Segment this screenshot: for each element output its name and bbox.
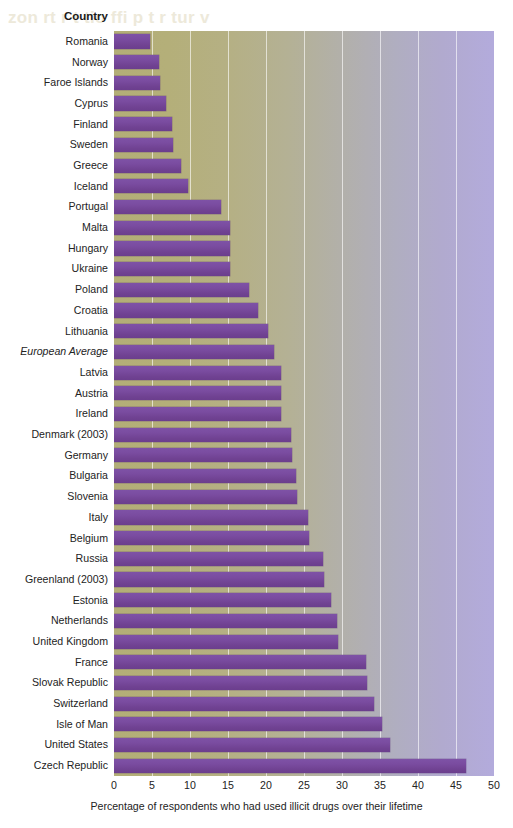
category-label: Norway xyxy=(0,56,108,68)
category-label: Slovenia xyxy=(0,490,108,502)
bar xyxy=(114,221,230,235)
x-tick-label: 15 xyxy=(222,779,234,791)
category-label: Sweden xyxy=(0,138,108,150)
bar xyxy=(114,303,258,317)
category-label: Czech Republic xyxy=(0,759,108,771)
bar xyxy=(114,345,274,359)
bar-row xyxy=(114,673,494,694)
x-tick-label: 10 xyxy=(184,779,196,791)
x-tick-label: 0 xyxy=(111,779,117,791)
bar xyxy=(114,552,323,566)
bar-row xyxy=(114,714,494,735)
bar-row xyxy=(114,93,494,114)
category-label: Austria xyxy=(0,387,108,399)
bar-row xyxy=(114,755,494,776)
bar-row xyxy=(114,610,494,631)
bar xyxy=(114,324,268,338)
bar-row xyxy=(114,72,494,93)
category-label: Faroe Islands xyxy=(0,76,108,88)
x-tick-label: 25 xyxy=(298,779,310,791)
category-label: France xyxy=(0,656,108,668)
bar-row xyxy=(114,197,494,218)
category-column-header: Country xyxy=(0,10,108,22)
category-label: European Average xyxy=(0,345,108,357)
bar-row xyxy=(114,383,494,404)
bar xyxy=(114,179,188,193)
bar-row xyxy=(114,114,494,135)
bar xyxy=(114,117,172,131)
category-label: Portugal xyxy=(0,200,108,212)
bar xyxy=(114,759,466,773)
bar-row xyxy=(114,31,494,52)
bar xyxy=(114,55,159,69)
x-tick-label: 30 xyxy=(336,779,348,791)
category-label: Lithuania xyxy=(0,325,108,337)
bar xyxy=(114,386,281,400)
category-label: Slovak Republic xyxy=(0,676,108,688)
category-label: Greece xyxy=(0,159,108,171)
bar-row xyxy=(114,693,494,714)
category-label: Denmark (2003) xyxy=(0,428,108,440)
bar xyxy=(114,407,281,421)
bar xyxy=(114,469,296,483)
category-label: Ukraine xyxy=(0,262,108,274)
bar xyxy=(114,676,367,690)
bar-row xyxy=(114,321,494,342)
category-label: Cyprus xyxy=(0,97,108,109)
bar xyxy=(114,697,374,711)
bar-row xyxy=(114,486,494,507)
bar-row xyxy=(114,445,494,466)
category-label: Switzerland xyxy=(0,697,108,709)
category-label: Netherlands xyxy=(0,614,108,626)
category-label: Germany xyxy=(0,449,108,461)
category-label: Belgium xyxy=(0,532,108,544)
category-label: Russia xyxy=(0,552,108,564)
bar xyxy=(114,635,338,649)
category-label: Malta xyxy=(0,221,108,233)
bar-row xyxy=(114,52,494,73)
x-tick-label: 5 xyxy=(149,779,155,791)
bar-row xyxy=(114,155,494,176)
x-axis-tick-labels: 05101520253035404550 xyxy=(0,779,513,795)
bar xyxy=(114,531,309,545)
x-tick-label: 45 xyxy=(450,779,462,791)
category-label: Finland xyxy=(0,118,108,130)
bar xyxy=(114,34,150,48)
bar xyxy=(114,283,249,297)
bar-row xyxy=(114,341,494,362)
category-label: Iceland xyxy=(0,180,108,192)
bar-row xyxy=(114,362,494,383)
x-tick-label: 35 xyxy=(374,779,386,791)
bar xyxy=(114,96,166,110)
bar-row xyxy=(114,528,494,549)
category-label: Hungary xyxy=(0,242,108,254)
category-label: Bulgaria xyxy=(0,469,108,481)
bar-row xyxy=(114,217,494,238)
bar xyxy=(114,614,337,628)
bar xyxy=(114,428,291,442)
bar-row xyxy=(114,590,494,611)
bar xyxy=(114,717,382,731)
category-label: Greenland (2003) xyxy=(0,573,108,585)
bar-row xyxy=(114,735,494,756)
bar xyxy=(114,593,331,607)
bar xyxy=(114,572,324,586)
bar-row xyxy=(114,631,494,652)
bar xyxy=(114,241,230,255)
bar xyxy=(114,138,173,152)
bar-row xyxy=(114,507,494,528)
plot-area xyxy=(114,31,494,776)
category-label: Italy xyxy=(0,511,108,523)
bar xyxy=(114,655,366,669)
bar-row xyxy=(114,548,494,569)
bar xyxy=(114,448,292,462)
bar-row xyxy=(114,404,494,425)
x-tick-label: 40 xyxy=(412,779,424,791)
bar xyxy=(114,366,281,380)
bar-row xyxy=(114,134,494,155)
bar xyxy=(114,159,181,173)
category-label: Ireland xyxy=(0,407,108,419)
category-label: Estonia xyxy=(0,594,108,606)
category-label: Isle of Man xyxy=(0,718,108,730)
bar-chart: Country RomaniaNorwayFaroe IslandsCyprus… xyxy=(0,0,513,828)
